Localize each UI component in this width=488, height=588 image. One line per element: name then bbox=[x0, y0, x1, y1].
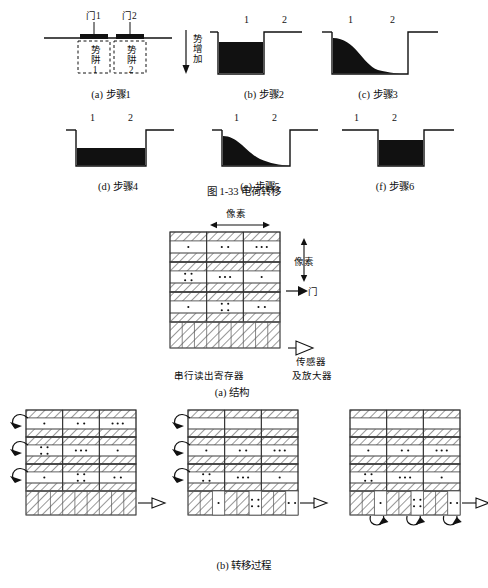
panel-b-number-1: 1 bbox=[244, 14, 249, 25]
pixel-side-label: 像素 bbox=[294, 254, 314, 268]
panel-a-caption: (a) 步骤1 bbox=[66, 86, 156, 101]
panel-f: 1 2 (f) 步骤6 bbox=[340, 112, 470, 174]
pixel-width-arrow bbox=[210, 220, 270, 230]
panel-a-graphic bbox=[28, 8, 188, 80]
panel-c-number-1: 1 bbox=[348, 14, 353, 25]
potential-axis-label-wrap: 势增加 bbox=[190, 34, 204, 68]
transfer-caption: (b) 转移过程 bbox=[194, 557, 294, 572]
panel-f-graphic bbox=[340, 112, 470, 174]
well-2-label-wrap: 势阱2 bbox=[124, 45, 138, 79]
transfer-panel-middle bbox=[170, 404, 325, 544]
panel-b: 1 2 势增加 (b) 步骤2 bbox=[172, 8, 312, 80]
panel-b-number-2: 2 bbox=[282, 14, 287, 25]
transfer-panel-right bbox=[332, 404, 487, 554]
pixel-top-label: 像素 bbox=[226, 206, 246, 220]
panel-b-caption: (b) 步骤2 bbox=[214, 86, 314, 101]
transfer-middle-graphic bbox=[170, 404, 325, 544]
transfer-right-graphic bbox=[332, 404, 487, 554]
panel-d-number-2: 2 bbox=[128, 112, 133, 123]
panel-d-number-1: 1 bbox=[90, 112, 95, 123]
panel-c-graphic bbox=[310, 8, 460, 80]
panel-c: 1 2 (c) 步骤3 bbox=[310, 8, 460, 80]
amplifier-label-line2: 及放大器 bbox=[292, 368, 332, 382]
panel-e-number-2: 2 bbox=[272, 112, 277, 123]
panel-e: 1 2 (e) 步骤5 bbox=[208, 112, 338, 174]
panel-c-number-2: 2 bbox=[390, 14, 395, 25]
gate-2-label: 门2 bbox=[122, 8, 137, 22]
panel-e-number-1: 1 bbox=[234, 112, 239, 123]
well-1-label-wrap: 势阱1 bbox=[88, 45, 102, 79]
structure-caption: (a) 结构 bbox=[182, 384, 282, 399]
serial-register-label: 串行读出寄存器 bbox=[174, 368, 244, 382]
transfer-panel-left bbox=[8, 404, 163, 544]
panel-f-number-2: 2 bbox=[392, 112, 397, 123]
panel-c-caption: (c) 步骤3 bbox=[328, 86, 428, 101]
panel-f-caption: (f) 步骤6 bbox=[340, 178, 450, 193]
figure1-caption: 图 1-33 电荷转移 bbox=[144, 183, 344, 198]
potential-axis-label: 势增加 bbox=[190, 34, 204, 64]
panel-f-number-1: 1 bbox=[354, 112, 359, 123]
panel-d-graphic bbox=[62, 112, 192, 174]
gate-pointer-arrow bbox=[286, 284, 308, 298]
well-2-label: 势阱2 bbox=[124, 45, 138, 75]
amplifier-label-line1: 传感器 bbox=[296, 354, 326, 368]
panel-a: 门1 门2 势阱1 势阱2 (a) 步骤1 bbox=[28, 8, 188, 80]
panel-d: 1 2 (d) 步骤4 bbox=[62, 112, 192, 174]
ccd-array-graphic bbox=[168, 230, 293, 380]
gate-1-label: 门1 bbox=[86, 8, 101, 22]
gate-label: 门 bbox=[308, 284, 318, 298]
transfer-left-graphic bbox=[8, 404, 163, 544]
well-1-label: 势阱1 bbox=[88, 45, 102, 75]
